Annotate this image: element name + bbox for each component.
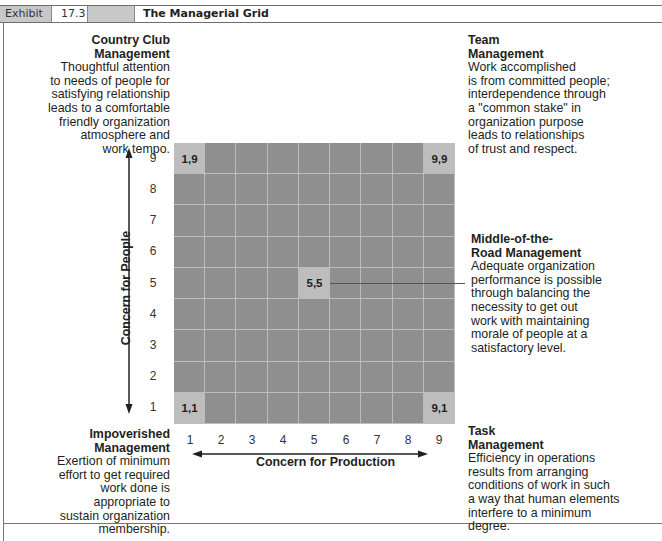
grid-cell <box>268 237 299 268</box>
grid-cell <box>361 393 392 424</box>
style-body-line: results from arranging <box>468 466 660 480</box>
style-body-line: performance is possible <box>471 274 661 288</box>
x-axis-label: Concern for Production <box>256 455 395 469</box>
style-title: Middle-of-the- <box>471 233 661 247</box>
grid-cell <box>174 330 205 361</box>
style-body-line: through balancing the <box>471 287 661 301</box>
grid-cell <box>424 362 455 393</box>
style-body-line: leads to relationships <box>468 129 658 143</box>
grid-cell <box>205 268 236 299</box>
grid-cell <box>299 299 330 330</box>
grid-cell <box>174 362 205 393</box>
grid-cell <box>299 393 330 424</box>
grid-cell <box>361 237 392 268</box>
x-tick: 6 <box>339 433 353 447</box>
grid-cell <box>205 174 236 205</box>
style-body-line: satisfying relationship <box>8 88 170 102</box>
style-body-line: interfere to a minimum <box>468 507 660 521</box>
grid-cell <box>393 237 424 268</box>
grid-cell-9-9: 9,9 <box>424 143 455 174</box>
grid-cell <box>330 143 361 174</box>
grid-cell <box>393 205 424 236</box>
style-body-line: Work accomplished <box>468 61 658 75</box>
style-body-line: interdependence through <box>468 88 658 102</box>
x-tick: 2 <box>214 433 228 447</box>
style-body-line: conditions of work in such <box>468 479 660 493</box>
x-tick: 9 <box>432 433 446 447</box>
impoverished-management-description: Impoverished Management Exertion of mini… <box>8 428 170 537</box>
grid-cell <box>330 362 361 393</box>
grid-cell-9-1: 9,1 <box>424 393 455 424</box>
exhibit-title: The Managerial Grid <box>135 6 662 22</box>
grid-cell <box>424 174 455 205</box>
country-club-description: Country Club Management Thoughtful atten… <box>8 34 170 156</box>
cell-label: 5,5 <box>299 277 330 289</box>
bottom-left-border <box>3 524 4 541</box>
grid-cell <box>299 205 330 236</box>
style-body-line: satisfactory level. <box>471 342 661 356</box>
exhibit-header: Exhibit 17.3 The Managerial Grid <box>0 5 662 23</box>
x-tick: 1 <box>183 433 197 447</box>
style-title: Impoverished <box>8 428 170 442</box>
middle-of-the-road-leader-line <box>330 283 465 284</box>
grid-cell <box>299 174 330 205</box>
y-tick: 1 <box>146 400 160 414</box>
y-tick: 6 <box>146 244 160 258</box>
x-tick: 5 <box>307 433 321 447</box>
style-title: Country Club <box>8 34 170 48</box>
style-body-line: organization purpose <box>468 116 658 130</box>
cell-label: 9,9 <box>424 153 455 165</box>
grid-cell <box>174 205 205 236</box>
grid-cell <box>361 299 392 330</box>
style-body-line: atmosphere and <box>8 129 170 143</box>
style-body-line: Exertion of minimum <box>8 455 170 469</box>
grid-cell <box>174 237 205 268</box>
grid-cell <box>330 393 361 424</box>
style-body-line: Adequate organization <box>471 260 661 274</box>
grid-cell <box>424 299 455 330</box>
grid-cell <box>205 362 236 393</box>
grid-cell <box>205 299 236 330</box>
style-body-line: work with maintaining <box>471 315 661 329</box>
style-body-line: necessity to get out <box>471 301 661 315</box>
grid-cell <box>330 174 361 205</box>
grid-cell <box>361 174 392 205</box>
y-tick: 7 <box>146 213 160 227</box>
style-title: Team <box>468 34 658 48</box>
middle-of-the-road-description: Middle-of-the- Road Management Adequate … <box>471 233 661 355</box>
grid-cell <box>393 393 424 424</box>
grid-cell <box>330 330 361 361</box>
style-body-line: friendly organization <box>8 116 170 130</box>
grid-cell <box>361 205 392 236</box>
style-body-line: is from committed people; <box>468 75 658 89</box>
cell-label: 9,1 <box>424 402 455 414</box>
grid-cell <box>330 299 361 330</box>
style-body-line: membership. <box>8 523 170 537</box>
grid-cell <box>299 143 330 174</box>
grid-cell <box>361 362 392 393</box>
grid-cell <box>236 393 267 424</box>
grid-cell <box>236 330 267 361</box>
grid-cell <box>268 330 299 361</box>
grid-cell <box>268 393 299 424</box>
x-tick: 3 <box>245 433 259 447</box>
grid-cell <box>205 205 236 236</box>
cell-label: 1,9 <box>174 153 205 165</box>
grid-cell <box>268 299 299 330</box>
style-body-line: appropriate to <box>8 496 170 510</box>
grid-cell <box>236 268 267 299</box>
y-tick: 4 <box>146 307 160 321</box>
header-spacer <box>88 6 135 22</box>
exhibit-label: Exhibit <box>0 6 52 22</box>
style-body-line: morale of people at a <box>471 328 661 342</box>
grid-cell <box>205 330 236 361</box>
team-management-description: Team Management Work accomplished is fro… <box>468 34 658 156</box>
style-title: Road Management <box>471 247 661 261</box>
style-title: Management <box>468 439 660 453</box>
style-body-line: degree. <box>468 520 660 534</box>
style-title: Management <box>468 48 658 62</box>
grid-cell <box>424 330 455 361</box>
grid-cell <box>299 362 330 393</box>
style-body-line: Efficiency in operations <box>468 452 660 466</box>
grid-cell <box>205 143 236 174</box>
